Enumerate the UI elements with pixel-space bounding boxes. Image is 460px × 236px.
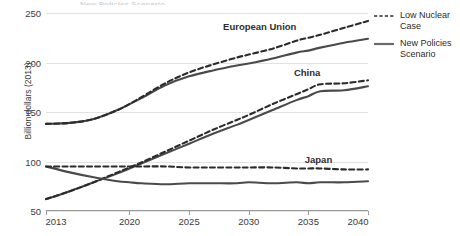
chart-title: New Policies Scenario	[80, 0, 280, 5]
legend-label-line-1: Low Nuclear	[400, 10, 450, 20]
y-tick-label: 250	[25, 8, 41, 19]
x-tick-label: 2020	[119, 216, 140, 227]
legend-label-line-2: Scenario	[400, 49, 436, 59]
y-tick-label: 100	[25, 156, 41, 167]
y-tick-label: 150	[25, 107, 41, 118]
legend: Low Nuclear Case New Policies Scenario	[374, 10, 460, 66]
x-tick-label: 2040	[347, 216, 368, 227]
legend-label-line-1: New Policies	[400, 38, 452, 48]
series-line	[46, 166, 368, 169]
gridline	[46, 211, 368, 212]
x-tick-mark	[249, 211, 250, 215]
series-annotation: China	[294, 67, 320, 78]
legend-label-low-nuclear-case: Low Nuclear Case	[400, 10, 450, 31]
dashed-line-icon	[374, 10, 394, 22]
series-lines	[46, 13, 368, 211]
x-tick-mark	[129, 211, 130, 215]
x-tick-label: 2035	[298, 216, 319, 227]
series-annotation: European Union	[223, 20, 296, 31]
x-tick-mark	[368, 211, 369, 215]
legend-item-low-nuclear-case[interactable]: Low Nuclear Case	[374, 10, 460, 31]
y-tick-label: 200	[25, 57, 41, 68]
plot-area: 50100150200250 201320202025203020352040 …	[46, 13, 368, 211]
series-annotation: Japan	[305, 153, 332, 164]
x-tick-mark	[189, 211, 190, 215]
x-tick-label: 2030	[238, 216, 259, 227]
series-line	[46, 39, 368, 124]
x-tick-label: 2013	[45, 216, 66, 227]
y-tick-label: 50	[30, 206, 41, 217]
chart-figure: New Policies Scenario Billion dollars (2…	[0, 0, 460, 236]
legend-item-new-policies-scenario[interactable]: New Policies Scenario	[374, 38, 460, 59]
x-tick-label: 2025	[179, 216, 200, 227]
x-tick-mark	[46, 211, 47, 215]
solid-line-icon	[374, 38, 394, 50]
x-tick-mark	[308, 211, 309, 215]
y-axis-title: Billion dollars (2013)	[23, 26, 33, 176]
legend-label-line-2: Case	[400, 21, 421, 31]
legend-label-new-policies-scenario: New Policies Scenario	[400, 38, 452, 59]
